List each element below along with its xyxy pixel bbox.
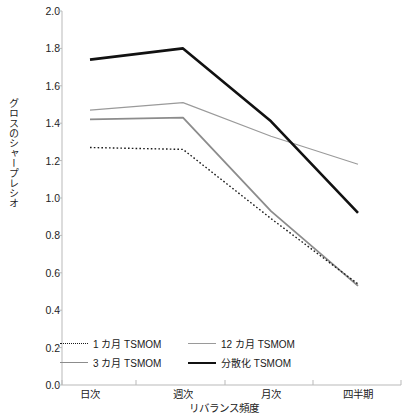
series-line — [90, 103, 358, 165]
sharpe-ratio-line-chart: グロスのシャープレシオ 2.0 1.8 1.6 1.4 1.2 1.0 0.8 … — [0, 0, 409, 418]
series-line — [90, 48, 358, 213]
legend-item-12m: 12 カ月 TSMOM — [188, 334, 295, 352]
series-line — [90, 148, 358, 285]
x-axis-ticks — [62, 380, 401, 385]
legend-label: 12 カ月 TSMOM — [221, 336, 295, 351]
x-tick-label-daily: 日次 — [80, 386, 100, 401]
x-tick-label-quarterly: 四半期 — [343, 386, 373, 401]
x-axis-label: リバランス頻度 — [189, 400, 259, 415]
series-line — [90, 118, 358, 286]
y-axis-ticks — [57, 11, 62, 385]
data-series-layer — [90, 48, 358, 285]
legend-swatch-dotted-icon — [60, 338, 88, 348]
legend-item-3m: 3 カ月 TSMOM — [60, 353, 161, 371]
legend-swatch-thin-line-icon — [188, 338, 216, 348]
legend-label: 分散化 TSMOM — [221, 355, 291, 370]
legend-label: 1 カ月 TSMOM — [93, 336, 161, 351]
axis-lines — [62, 11, 401, 385]
legend-swatch-thick-line-icon — [188, 357, 216, 367]
x-tick-label-monthly: 月次 — [261, 386, 281, 401]
x-tick-label-weekly: 週次 — [173, 386, 193, 401]
legend-item-diversified: 分散化 TSMOM — [188, 353, 291, 371]
legend-item-1m: 1 カ月 TSMOM — [60, 334, 161, 352]
legend-label: 3 カ月 TSMOM — [93, 355, 161, 370]
legend: 1 カ月 TSMOM 12 カ月 TSMOM 3 カ月 TSMOM 分散化 TS… — [60, 334, 310, 376]
legend-swatch-medium-line-icon — [60, 357, 88, 367]
